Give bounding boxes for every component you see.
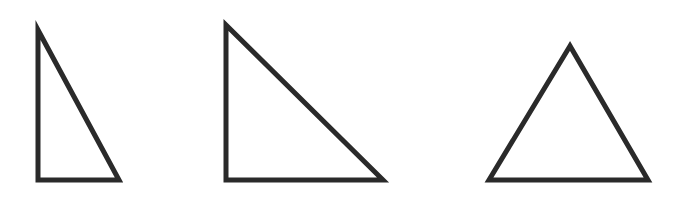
figure-canvas (0, 0, 691, 203)
diagram-background (0, 0, 691, 203)
triangles-diagram (0, 0, 691, 203)
